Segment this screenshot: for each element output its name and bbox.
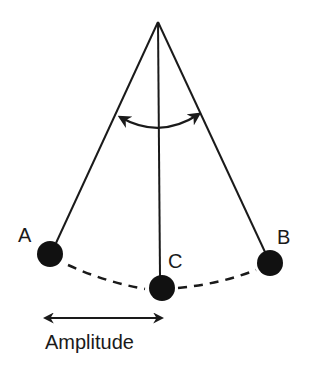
bob-a xyxy=(37,241,63,267)
swing-path-dashed-arc-left xyxy=(68,265,145,289)
swing-path-dashed-arc-right xyxy=(178,270,256,288)
label-b: B xyxy=(277,226,290,248)
bob-c xyxy=(149,275,175,301)
string-to-bob-a xyxy=(56,22,158,243)
label-a: A xyxy=(18,224,32,246)
bob-b xyxy=(257,250,283,276)
amplitude-label: Amplitude xyxy=(45,331,134,353)
pendulum-diagram: A C B Amplitude xyxy=(0,0,310,370)
label-c: C xyxy=(168,250,182,272)
string-to-bob-b xyxy=(158,22,265,252)
string-to-bob-c xyxy=(158,22,160,276)
